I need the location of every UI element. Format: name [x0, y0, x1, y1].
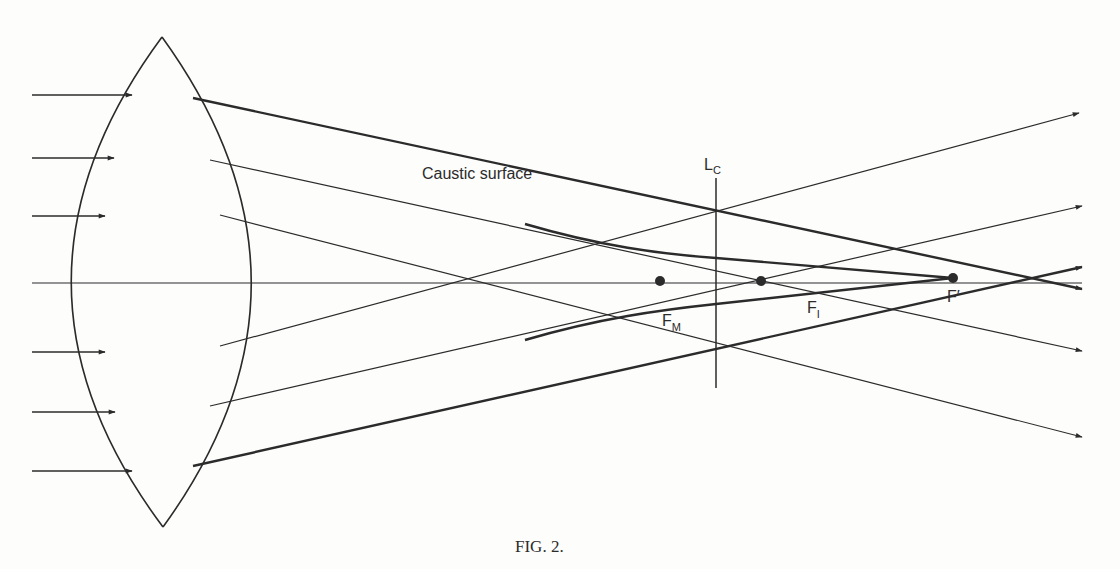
caustic-upper	[525, 224, 953, 278]
focal-point-fi	[756, 276, 766, 286]
marginal-ray	[193, 98, 1082, 289]
lens-left-surface	[71, 37, 163, 527]
refracted-ray	[210, 206, 1082, 406]
refracted-rays	[193, 98, 1082, 466]
caustic-diagram: Caustic surface LC FM FI F′ FIG. 2.	[0, 0, 1120, 569]
fprime-label: F′	[947, 288, 960, 305]
focal-point-fm	[655, 276, 665, 286]
figure-canvas: Caustic surface LC FM FI F′ FIG. 2.	[0, 0, 1120, 569]
refracted-ray	[210, 160, 1082, 351]
caustic-surface-curve	[525, 224, 953, 340]
lc-label: LC	[704, 156, 721, 176]
convex-lens	[71, 37, 251, 527]
focal-point-fprime	[948, 273, 958, 283]
caustic-surface-label: Caustic surface	[422, 165, 532, 182]
figure-caption: FIG. 2.	[515, 537, 564, 556]
refracted-ray	[220, 113, 1079, 346]
refracted-ray	[220, 215, 1082, 437]
fi-label: FI	[807, 299, 820, 320]
lens-right-surface	[162, 37, 251, 527]
